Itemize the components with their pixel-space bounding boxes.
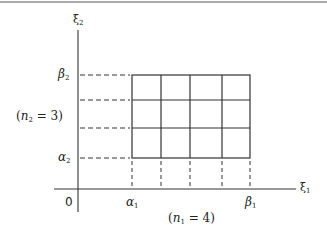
- y-tick-alpha2: α2: [58, 151, 71, 165]
- x-axis-label: ξ1: [300, 182, 311, 195]
- x-tick-beta1: β1: [245, 196, 256, 210]
- partition-grid: [132, 75, 250, 158]
- n2-annotation: (n2 = 3): [16, 110, 63, 124]
- y-axis-label: ξ2: [73, 14, 84, 27]
- n1-annotation: (n1 = 4): [168, 212, 215, 226]
- y-tick-beta2: β2: [58, 68, 69, 82]
- y-dashed-guides: [80, 75, 130, 158]
- x-tick-alpha1: α1: [126, 196, 139, 210]
- x-dashed-guides: [132, 161, 250, 188]
- origin-label: 0: [65, 196, 73, 208]
